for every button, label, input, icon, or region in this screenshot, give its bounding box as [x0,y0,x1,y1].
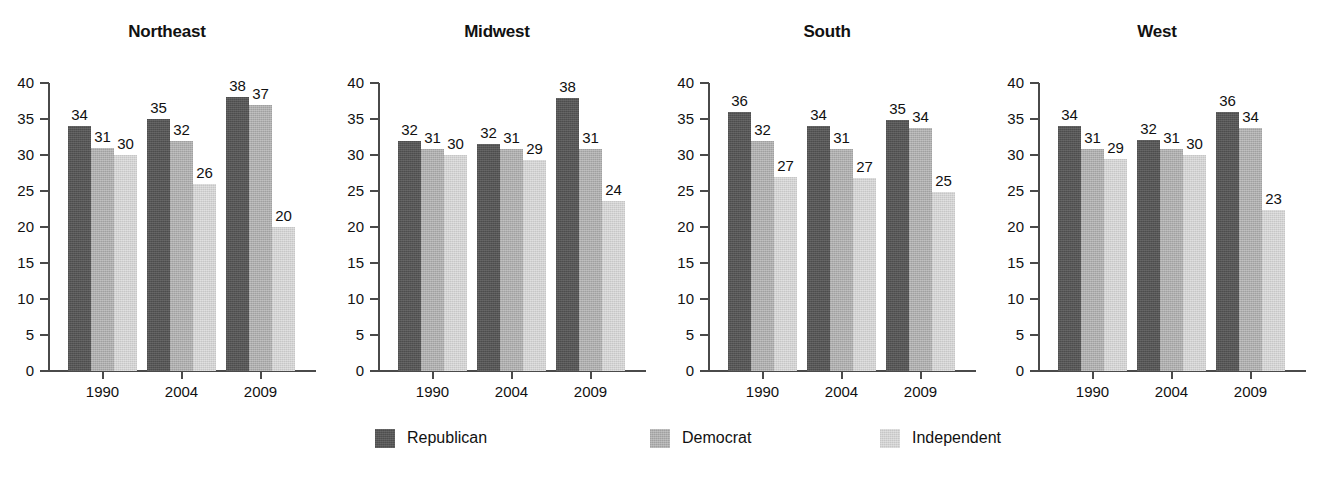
x-tick-label: 2009 [221,383,301,400]
x-tick-label: 2009 [551,383,631,400]
y-tick-label: 35 [0,111,34,126]
bar [477,144,500,371]
bar-value-label: 36 [1211,93,1245,108]
x-tick-label: 1990 [1053,383,1133,400]
x-tick-label: 2004 [142,383,222,400]
panel-title: Northeast [0,22,334,42]
panel-south: South05101520253035401990200420093632273… [660,0,994,415]
bar-value-label: 30 [109,136,143,151]
x-tick [260,372,262,379]
x-tick [1092,372,1094,379]
bar-value-label: 31 [574,130,608,145]
y-tick-label: 25 [990,183,1024,198]
y-tick-label: 30 [0,147,34,162]
y-tick-label: 25 [330,183,364,198]
bar-value-label: 31 [825,130,859,145]
bar [421,149,444,371]
bar [774,177,797,371]
bar [193,184,216,371]
plot-area: 343129323130363423 [1038,83,1306,371]
y-tick-label: 15 [330,255,364,270]
y-tick-label: 5 [0,327,34,342]
x-tick [590,372,592,379]
bar-value-label: 32 [746,122,780,137]
legend-label: Republican [407,429,487,447]
bar-value-label: 25 [927,173,961,188]
bar [444,155,467,371]
x-tick-label: 1990 [63,383,143,400]
y-tick-label: 5 [330,327,364,342]
y-tick-label: 20 [330,219,364,234]
y-tick-label: 30 [660,147,694,162]
x-tick-label: 2009 [881,383,961,400]
y-tick-label: 25 [0,183,34,198]
y-tick-label: 10 [990,291,1024,306]
bar [398,141,421,371]
bar [1216,112,1239,371]
bar [500,149,523,371]
bar [68,126,91,371]
y-tick-label: 35 [990,111,1024,126]
panel-midwest: Midwest051015202530354019902004200932313… [330,0,664,415]
bar [1058,126,1081,371]
bar [728,112,751,371]
bar [751,141,774,371]
bar [114,155,137,371]
small-multiples-bar-chart: Northeast0510152025303540199020042009343… [0,0,1334,483]
panel-northeast: Northeast0510152025303540199020042009343… [0,0,334,415]
bar-value-label: 29 [1099,140,1133,155]
bar-value-label: 38 [551,79,585,94]
plot-area: 343130353226383720 [48,83,316,371]
legend-label: Democrat [682,429,751,447]
y-tick-label: 40 [0,75,34,90]
y-tick-label: 0 [660,363,694,378]
y-tick-label: 20 [990,219,1024,234]
y-tick-label: 35 [660,111,694,126]
bar-value-label: 34 [1234,109,1268,124]
y-tick-label: 40 [330,75,364,90]
bar [147,119,170,371]
bar [1183,155,1206,371]
y-tick-label: 35 [330,111,364,126]
legend-item-dem: Democrat [650,425,751,451]
bar-value-label: 26 [188,165,222,180]
legend-swatch-icon [375,429,395,448]
y-tick-label: 20 [660,219,694,234]
y-tick-label: 30 [990,147,1024,162]
panel-title: Midwest [330,22,664,42]
y-tick-label: 0 [330,363,364,378]
bar-value-label: 23 [1257,191,1291,206]
plot-area: 323130323129383124 [378,83,646,371]
y-tick-label: 15 [990,255,1024,270]
bar-value-label: 35 [142,100,176,115]
y-tick-label: 0 [0,363,34,378]
bar-value-label: 36 [723,93,757,108]
y-tick-label: 25 [660,183,694,198]
bar-value-label: 32 [165,122,199,137]
bar-value-label: 27 [769,158,803,173]
legend-item-rep: Republican [375,425,487,451]
bar [249,105,272,371]
y-tick-label: 40 [660,75,694,90]
x-tick-label: 2009 [1211,383,1291,400]
bar-value-label: 34 [904,109,938,124]
bar-value-label: 24 [597,182,631,197]
panel-title: South [660,22,994,42]
bar-value-label: 30 [439,136,473,151]
bar [909,128,932,371]
bar-value-label: 30 [1178,136,1212,151]
bar [602,201,625,371]
y-tick-label: 20 [0,219,34,234]
bar [1104,159,1127,371]
x-tick [102,372,104,379]
legend-swatch-icon [650,429,670,448]
bar [1160,149,1183,371]
x-tick [920,372,922,379]
bar-value-label: 37 [244,86,278,101]
x-tick-label: 2004 [1132,383,1212,400]
bar [1239,128,1262,371]
x-tick [1250,372,1252,379]
y-tick-label: 40 [990,75,1024,90]
chart-legend: RepublicanDemocratIndependent [0,425,1334,459]
x-tick-label: 1990 [393,383,473,400]
